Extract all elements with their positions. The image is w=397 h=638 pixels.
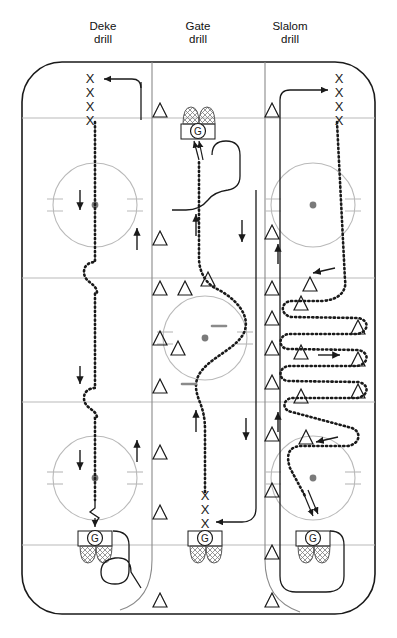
svg-text:X: X — [86, 71, 95, 86]
svg-text:X: X — [201, 516, 210, 531]
svg-text:G: G — [201, 533, 209, 544]
svg-text:X: X — [335, 113, 344, 128]
svg-text:G: G — [194, 126, 202, 137]
svg-text:X: X — [86, 113, 95, 128]
queue-top-right: XX XX — [335, 71, 344, 128]
drill-diagram: Deke drill Gate drill Slalom drill — [0, 0, 397, 638]
svg-text:X: X — [335, 71, 344, 86]
queue-bottom-center: XX X — [201, 488, 210, 531]
svg-text:G: G — [91, 533, 99, 544]
queue-top-left: XX XX — [86, 71, 95, 128]
svg-text:X: X — [86, 85, 95, 100]
svg-text:X: X — [86, 99, 95, 114]
svg-text:X: X — [335, 99, 344, 114]
svg-text:G: G — [309, 533, 317, 544]
rink-svg: G G G — [0, 0, 397, 638]
svg-text:X: X — [335, 85, 344, 100]
svg-text:X: X — [201, 488, 210, 503]
svg-text:X: X — [201, 502, 210, 517]
